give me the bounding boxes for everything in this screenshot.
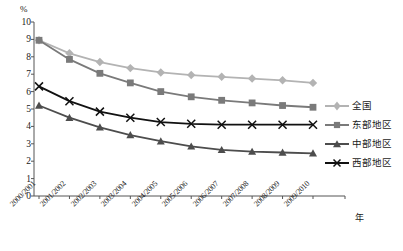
y-tick-label: 2 [15, 156, 31, 166]
legend-label-national: 全国 [352, 100, 372, 111]
data-point-marker [310, 104, 317, 111]
legend-marker-diamond-icon [325, 100, 349, 112]
series-triangle [35, 102, 317, 157]
legend-item-national: 全国 [325, 96, 403, 115]
data-point-marker [187, 71, 195, 79]
series-line [39, 86, 313, 124]
y-axis-unit-label: % [20, 4, 28, 14]
data-point-marker [309, 79, 317, 87]
data-point-marker [249, 100, 256, 107]
legend-label-east: 东部地区 [352, 119, 392, 130]
y-tick-label: 4 [15, 121, 31, 131]
data-point-marker [217, 73, 225, 81]
legend-marker-square-icon [325, 119, 349, 131]
legend-item-central: 中部地区 [325, 134, 403, 153]
data-point-marker [188, 93, 195, 100]
y-tick-label: 9 [15, 34, 31, 44]
series-line [39, 40, 313, 83]
data-point-marker [65, 97, 73, 105]
chart-legend: 全国 东部地区 中部地区 西部地区 [325, 96, 403, 172]
legend-marker-triangle-icon [325, 138, 349, 150]
x-axis-title: 年 [355, 213, 364, 223]
chart-container: % 年 012345678910 2000/20012001/20022002/… [0, 0, 403, 251]
legend-item-east: 东部地区 [325, 115, 403, 134]
y-tick-label: 7 [15, 69, 31, 79]
y-tick-label: 3 [15, 139, 31, 149]
y-tick-label: 10 [11, 17, 31, 27]
data-point-marker [126, 64, 134, 72]
legend-label-west: 西部地区 [352, 157, 392, 168]
y-tick-label: 8 [15, 52, 31, 62]
y-tick-label: 6 [15, 87, 31, 97]
legend-item-west: 西部地区 [325, 153, 403, 172]
data-point-marker [218, 97, 225, 104]
data-point-marker [157, 68, 165, 76]
data-point-marker [35, 102, 43, 109]
data-point-marker [278, 76, 286, 84]
data-point-marker [96, 58, 104, 66]
data-point-marker [279, 102, 286, 109]
data-point-marker [36, 37, 43, 44]
data-point-marker [66, 56, 73, 63]
y-tick-label: 5 [15, 104, 31, 114]
data-point-marker [157, 88, 164, 95]
series-line [39, 106, 313, 154]
series-diamond [35, 36, 317, 87]
data-point-marker [127, 80, 134, 87]
legend-marker-cross-icon [325, 157, 349, 169]
legend-label-central: 中部地区 [352, 138, 392, 149]
data-point-marker [35, 82, 43, 90]
data-point-marker [248, 74, 256, 82]
data-point-marker [96, 70, 103, 77]
